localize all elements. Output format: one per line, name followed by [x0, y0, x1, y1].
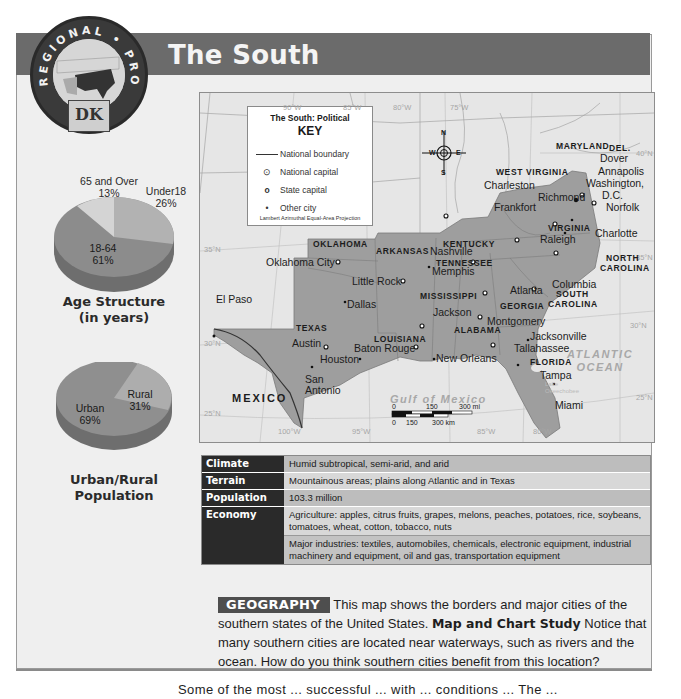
- city-dallas: Dallas: [347, 298, 376, 310]
- city-nashville: Nashville: [430, 245, 473, 257]
- city-el-paso: El Paso: [216, 293, 252, 305]
- state-west-virginia: WEST VIRGINIA: [496, 167, 569, 177]
- city-san-antonio-2: Antonio: [305, 384, 341, 396]
- fact-value: Humid subtropical, semi-arid, and arid: [284, 456, 650, 472]
- atlantic-ocean-label: ATLANTICOCEAN: [560, 348, 640, 374]
- scale-mi-300: 300 mi: [459, 403, 480, 410]
- age-structure-chart: 65 and Over13% Under1826% 18-6461% Age S…: [34, 160, 194, 330]
- city-dc: D.C.: [602, 189, 623, 201]
- fact-label: Terrain: [202, 473, 284, 489]
- scale-km-0: 0: [392, 419, 396, 426]
- urban-chart-title: Urban/RuralPopulation: [34, 472, 194, 504]
- state-georgia: GEORGIA: [500, 301, 544, 311]
- national-capital-icon: ⊙: [260, 167, 274, 177]
- age-label-under18: Under1826%: [138, 185, 194, 209]
- city-jacksonville: Jacksonville: [530, 330, 587, 342]
- lon-80w-bottom: 80°W: [533, 427, 551, 436]
- fact-value: 103.3 million: [284, 490, 650, 506]
- lon-90w: 90°W: [283, 103, 301, 112]
- fact-label: Climate: [202, 456, 284, 472]
- compass-w: W: [429, 149, 436, 156]
- state-south-carolina-1: SOUTH: [556, 289, 589, 299]
- city-charlotte: Charlotte: [595, 227, 638, 239]
- city-oklahoma-city: Oklahoma City: [266, 256, 335, 268]
- city-austin: Austin: [292, 337, 321, 349]
- state-mississippi: MISSISSIPPI: [420, 291, 477, 301]
- city-dover: Dover: [600, 152, 628, 164]
- lake-okeechobee-label: LakeOkeechobee: [545, 381, 579, 395]
- map-chart-study-label: Map and Chart Study: [432, 616, 581, 631]
- lon-75w: 75°W: [450, 103, 468, 112]
- state-arkansas: ARKANSAS: [376, 246, 429, 256]
- city-raleigh: Raleigh: [540, 233, 576, 245]
- compass-e: E: [456, 149, 461, 156]
- city-little-rock: Little Rock: [352, 275, 401, 287]
- scale-mi-0: 0: [392, 403, 396, 410]
- map-caption: GEOGRAPHY This map shows the borders and…: [218, 595, 648, 671]
- fact-row-climate: Climate Humid subtropical, semi-arid, an…: [202, 456, 650, 473]
- city-annapolis: Annapolis: [598, 165, 644, 177]
- city-richmond: Richmond: [538, 191, 585, 203]
- state-capital-icon: o: [260, 185, 274, 195]
- south-political-map: The South: Political KEY National bounda…: [199, 92, 655, 443]
- key-map-title: The South: Political: [248, 113, 372, 123]
- fact-value: Mountainous areas; plains along Atlantic…: [284, 473, 650, 489]
- region-facts-table: Climate Humid subtropical, semi-arid, an…: [201, 455, 651, 565]
- fact-row-population: Population 103.3 million: [202, 490, 650, 507]
- age-label-18-64: 18-6461%: [78, 242, 128, 266]
- scale-mi-150: 150: [426, 403, 438, 410]
- city-miami: Miami: [555, 399, 583, 411]
- cut-off-body-text: Some of the most ... successful ... with…: [178, 682, 558, 697]
- city-atlanta: Atlanta: [510, 284, 543, 296]
- city-washington: Washington,: [586, 177, 644, 189]
- lat-35n-left: 35°N: [204, 245, 221, 254]
- key-heading: KEY: [248, 124, 372, 138]
- city-columbia: Columbia: [552, 278, 596, 290]
- fact-label: Economy: [202, 507, 284, 564]
- national-boundary-line-icon: [256, 154, 278, 155]
- lat-25n-left: 25°N: [204, 409, 221, 418]
- urban-label-rural: Rural31%: [120, 388, 160, 412]
- fact-label: Population: [202, 490, 284, 506]
- projection-note: Lambert Azimuthal Equal-Area Projection: [248, 215, 372, 221]
- geography-badge: GEOGRAPHY: [218, 597, 330, 613]
- map-key: The South: Political KEY National bounda…: [247, 106, 373, 226]
- urban-label-urban: Urban69%: [70, 402, 110, 426]
- city-montgomery: Montgomery: [487, 315, 545, 327]
- dk-book-logo: DK: [68, 100, 110, 132]
- urban-rural-chart: Rural31% Urban69% Urban/RuralPopulation: [34, 362, 194, 512]
- compass-n: N: [441, 129, 447, 136]
- scale-km-300: 300 km: [432, 419, 455, 426]
- scale-km-150: 150: [406, 419, 418, 426]
- other-city-icon: •: [260, 203, 274, 213]
- fact-row-economy: Economy Agriculture: apples, citrus frui…: [202, 507, 650, 564]
- state-maryland: MARYLAND: [556, 141, 609, 151]
- lon-85w: 85°W: [343, 103, 361, 112]
- lat-40n: 40°N: [636, 149, 653, 158]
- state-virginia: VIRGINIA: [548, 223, 591, 233]
- state-north-carolina-1: NORTH: [606, 253, 639, 263]
- lon-85w-bottom: 85°W: [477, 427, 495, 436]
- age-chart-title: Age Structure(in years): [34, 294, 194, 326]
- state-north-carolina-2: CAROLINA: [600, 263, 650, 273]
- lon-80w: 80°W: [393, 103, 411, 112]
- state-texas: TEXAS: [296, 323, 327, 333]
- city-baton-rouge: Baton Rouge: [354, 342, 415, 354]
- urban-pie-graphic: [34, 362, 194, 462]
- scale-bar: [392, 411, 472, 417]
- state-south-carolina-2: CAROLINA: [548, 299, 598, 309]
- lon-100w: 100°W: [278, 427, 301, 436]
- city-jackson: Jackson: [433, 306, 472, 318]
- fact-value-industries: Major industries: textiles, automobiles,…: [284, 536, 650, 564]
- age-label-65-over: 65 and Over13%: [74, 175, 144, 199]
- lat-25n-right: 25°N: [636, 393, 653, 402]
- city-charleston: Charleston: [484, 179, 535, 191]
- city-frankfort: Frankfort: [494, 201, 536, 213]
- city-houston: Houston: [320, 353, 359, 365]
- lon-95w: 95°W: [352, 427, 370, 436]
- lat-30n-left: 30°N: [204, 339, 221, 348]
- compass-s: S: [441, 169, 446, 176]
- state-oklahoma: OKLAHOMA: [313, 239, 368, 249]
- country-mexico: MEXICO: [232, 392, 287, 404]
- city-norfolk: Norfolk: [606, 201, 639, 213]
